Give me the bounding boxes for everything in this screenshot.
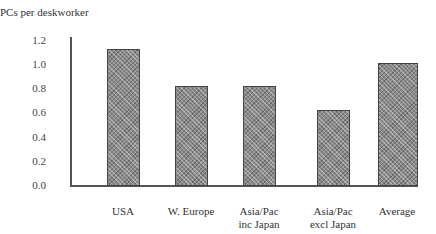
x-label-average: Average [362,205,432,218]
x-label-line: inc Japan [224,218,294,231]
y-tick-0.6: 0.6 [24,106,54,118]
bar-usa [107,49,140,186]
y-tick-1.2: 1.2 [24,34,54,46]
y-axis [70,37,72,187]
x-label-line: Asia/Pac [298,205,368,218]
x-label-asia-pac-inc-japan: Asia/Pac inc Japan [224,205,294,231]
x-label-line: excl Japan [298,218,368,231]
y-tick-0.4: 0.4 [24,131,54,143]
y-tick-0.8: 0.8 [24,82,54,94]
x-label-usa: USA [88,205,158,218]
y-tick-1.0: 1.0 [24,58,54,70]
bar-asia-pac-inc-japan [243,86,276,186]
x-label-line: Average [362,205,432,218]
x-label-w-europe: W. Europe [156,205,226,218]
x-label-asia-pac-excl-japan: Asia/Pac excl Japan [298,205,368,231]
y-tick-0.2: 0.2 [24,155,54,167]
x-label-line: Asia/Pac [224,205,294,218]
y-tick-0.0: 0.0 [24,179,54,191]
x-label-line: USA [88,205,158,218]
bar-w-europe [175,86,208,186]
y-axis-label: PCs per deskworker [0,6,89,18]
bar-asia-pac-excl-japan [317,110,350,186]
x-label-line: W. Europe [156,205,226,218]
bar-average [378,63,418,186]
